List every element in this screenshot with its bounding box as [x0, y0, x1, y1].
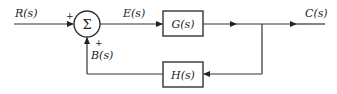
forward-block-label: G(s) — [171, 18, 194, 31]
sigma-symbol: Σ — [82, 17, 91, 32]
error-label: E(s) — [122, 7, 145, 20]
diagram-canvas: R(s) + Σ E(s) G(s) C(s) H(s) + B(s) — [0, 0, 337, 94]
feedback-plus-sign: + — [95, 38, 103, 48]
block-diagram: R(s) + Σ E(s) G(s) C(s) H(s) + B(s) — [0, 0, 337, 94]
feedback-signal-label: B(s) — [90, 49, 113, 62]
feedback-block-label: H(s) — [170, 69, 195, 82]
input-label: R(s) — [14, 7, 38, 20]
output-label: C(s) — [305, 7, 328, 20]
input-plus-sign: + — [66, 11, 74, 21]
